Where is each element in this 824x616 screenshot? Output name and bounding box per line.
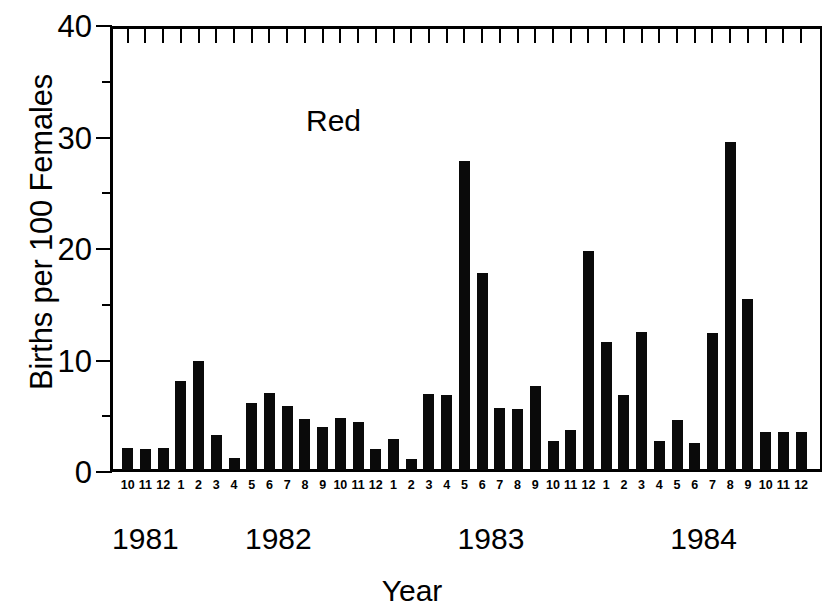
bar: [548, 441, 559, 470]
top-axis-tick: [393, 26, 395, 43]
x-axis-month-label: 8: [727, 479, 734, 492]
bar: [423, 394, 434, 470]
x-axis-month-label: 6: [479, 479, 486, 492]
top-axis-tick: [623, 26, 625, 43]
x-axis-month-label: 1: [603, 479, 610, 492]
top-axis-tick: [534, 26, 536, 43]
bar: [299, 419, 310, 470]
top-axis-tick: [694, 26, 696, 43]
top-axis-tick: [162, 26, 164, 43]
x-axis-month-label: 1: [390, 479, 397, 492]
bar: [459, 161, 470, 470]
x-axis-year-label: 1981: [112, 524, 179, 554]
top-axis-tick: [144, 26, 146, 43]
x-axis-month-label: 3: [425, 479, 432, 492]
x-axis-month-label: 12: [794, 479, 808, 492]
x-axis-month-label: 4: [443, 479, 450, 492]
bar: [636, 332, 647, 470]
top-axis-tick: [127, 26, 129, 43]
bar: [246, 403, 257, 470]
x-axis-month-label: 5: [674, 479, 681, 492]
x-axis-month-label: 5: [461, 479, 468, 492]
x-axis-month-label: 6: [691, 479, 698, 492]
right-axis-line: [820, 26, 822, 472]
x-axis-month-label: 10: [759, 479, 773, 492]
top-axis-tick: [552, 26, 554, 43]
bar: [406, 459, 417, 470]
x-axis-year-label: 1984: [670, 524, 737, 554]
bar: [229, 458, 240, 470]
y-axis-tick: [96, 137, 112, 139]
bar: [760, 432, 771, 470]
top-axis-tick: [517, 26, 519, 43]
x-axis-month-label: 12: [369, 479, 383, 492]
x-axis-month-label: 1: [177, 479, 184, 492]
y-axis-tick-label: 0: [75, 457, 92, 488]
top-axis-tick: [463, 26, 465, 43]
x-axis-month-label: 11: [139, 479, 152, 492]
x-axis-month-label: 11: [351, 479, 364, 492]
y-axis-minor-tick: [102, 192, 111, 194]
top-axis-tick: [410, 26, 412, 43]
bar: [158, 448, 169, 470]
bar: [725, 142, 736, 470]
plot-area: Red: [110, 26, 822, 472]
top-axis-tick: [251, 26, 253, 43]
bar: [317, 427, 328, 470]
x-axis-year-label: 1983: [458, 524, 525, 554]
y-axis-tick-label: 10: [58, 345, 92, 376]
x-axis-month-label: 9: [319, 479, 326, 492]
y-axis-tick-label: 30: [58, 122, 92, 153]
bar: [707, 333, 718, 470]
x-axis-month-label: 7: [284, 479, 291, 492]
x-axis-month-label: 10: [546, 479, 560, 492]
bar: [388, 439, 399, 470]
top-axis-tick: [587, 26, 589, 43]
y-axis-minor-tick: [102, 304, 111, 306]
bar: [441, 395, 452, 470]
bar: [654, 441, 665, 470]
x-axis-month-label: 10: [333, 479, 347, 492]
top-axis-tick: [339, 26, 341, 43]
x-axis-month-label: 11: [564, 479, 577, 492]
y-axis-tick: [96, 471, 112, 473]
top-axis-tick: [481, 26, 483, 43]
x-axis-month-label: 8: [301, 479, 308, 492]
top-axis-tick: [233, 26, 235, 43]
bar: [140, 449, 151, 470]
bar: [778, 432, 789, 470]
top-axis-tick: [322, 26, 324, 43]
x-axis-month-label: 5: [248, 479, 255, 492]
top-axis-tick: [198, 26, 200, 43]
top-axis-tick: [286, 26, 288, 43]
top-axis-tick: [782, 26, 784, 43]
top-axis-tick: [428, 26, 430, 43]
y-axis-minor-tick: [102, 415, 111, 417]
top-axis-tick: [357, 26, 359, 43]
bar: [742, 299, 753, 470]
top-axis-tick: [215, 26, 217, 43]
bar: [193, 361, 204, 470]
top-axis-tick: [711, 26, 713, 43]
y-axis-minor-tick: [102, 81, 111, 83]
top-axis-tick: [676, 26, 678, 43]
bar: [477, 273, 488, 470]
x-axis-month-label: 7: [496, 479, 503, 492]
top-axis-tick: [304, 26, 306, 43]
top-axis-tick: [605, 26, 607, 43]
y-axis-tick: [96, 25, 112, 27]
bar: [672, 420, 683, 470]
x-axis-year-label: 1982: [245, 524, 312, 554]
top-axis-tick: [499, 26, 501, 43]
x-axis-month-label: 3: [638, 479, 645, 492]
y-axis-tick-labels: 010203040: [18, 26, 92, 472]
x-axis-title: Year: [0, 576, 824, 606]
bar: [689, 443, 700, 470]
x-axis-month-labels: 1011121234567891011121234567891011121234…: [110, 479, 822, 499]
bar: [175, 381, 186, 470]
x-axis-month-label: 7: [709, 479, 716, 492]
x-axis-month-label: 12: [581, 479, 595, 492]
y-axis-tick-label: 20: [58, 234, 92, 265]
x-axis-month-label: 9: [744, 479, 751, 492]
series-annotation-label: Red: [306, 106, 361, 136]
